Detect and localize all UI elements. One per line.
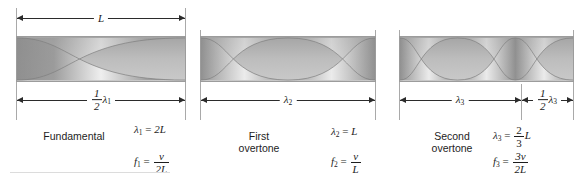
standing-wave-shape-1 [17,37,185,81]
lambda3-sub-a: 3 [461,98,465,107]
panel-first-overtone: λ2 First overtone λ2 = L f2 = v L [186,0,376,181]
caption-line1-panel1: Fundamental [43,130,104,142]
lambda3-fraction: 2 3 [514,124,524,150]
lambda2-value: L [351,125,357,137]
bottom-hairline-rule [10,172,170,173]
bottom-dimension-a-arrow-left-panel3 [400,97,406,103]
f3-numerator: 3v [513,150,529,163]
bottom-dimension-b-arrow-right-panel3 [567,97,573,103]
top-dimension-arrow-right-panel1 [179,15,185,21]
half-fraction-panel3: 1 2 [538,87,548,113]
bottom-dimension-arrow-left-panel1 [17,97,23,103]
string-bar-second-overtone [399,36,574,82]
f3-subscript: 3 [496,160,500,169]
top-dimension-label-panel1: L [94,13,108,24]
lambda-sub-panel2: 2 [289,98,293,107]
wavelength-equation-panel3: λ3 = 2 3 L [493,124,531,150]
wavelength-equation-panel2: λ2 = L [331,126,357,138]
top-dimension-arrow-left-panel1 [17,15,23,21]
bottom-dimension-arrow-right-panel1 [179,97,185,103]
equals-sign-w2: = [342,125,348,137]
bottom-dimension-label-panel2: λ2 [280,94,297,106]
equals-sign-f2: = [341,155,347,167]
caption-line2-panel3: overtone [432,142,473,154]
bottom-dimension-label-b-panel3: 1 2 λ3 [533,87,561,113]
standing-wave-shape-2 [201,37,375,81]
lambda2-subscript: 2 [336,130,340,139]
lambda3-denominator: 3 [514,137,524,150]
caption-second-overtone: Second overtone [432,130,473,154]
lambda-sub-panel1: 1 [107,97,111,106]
f1-subscript: 1 [137,160,141,169]
bottom-dimension-b-arrow-left-panel3 [522,97,528,103]
f2-fraction: v L [351,150,361,176]
wavelength-equation-panel1: λ1 = 2L [134,124,166,136]
caption-line1-panel2: First [239,130,280,142]
bottom-dimension-a-arrow-right-panel3 [515,97,521,103]
string-bar-fundamental [16,36,186,82]
caption-fundamental: Fundamental [43,130,104,142]
lambda3-numerator: 2 [514,124,524,137]
equals-sign-f3: = [503,155,509,167]
f3-denominator: 2L [513,163,529,176]
caption-line2-panel2: overtone [239,142,280,154]
caption-line1-panel3: Second [432,130,473,142]
f2-denominator: L [351,163,361,176]
equals-sign-w3: = [504,129,510,141]
bottom-dimension-label-a-panel3: λ3 [452,94,469,106]
f2-numerator: v [351,150,361,163]
panel-fundamental: L [0,0,186,181]
bottom-dimension-label-panel1: 1 2 λ1 [87,87,115,113]
f1-numerator: v [154,150,170,163]
bottom-dimension-arrow-left-panel2 [201,97,207,103]
frequency-equation-panel2: f2 = v L [331,150,362,176]
standing-wave-shape-3 [400,37,573,81]
frequency-equation-panel3: f3 = 3v 2L [493,150,529,176]
lambda3-sub-b: 3 [553,97,557,106]
half-fraction-panel1: 1 2 [92,87,102,113]
bottom-dimension-arrow-right-panel2 [369,97,375,103]
equals-sign-f1: = [144,155,150,167]
lambda1-value: 2L [154,123,166,135]
equals-sign-w1: = [145,123,151,135]
string-bar-first-overtone [200,36,376,82]
lambda3-subscript: 3 [498,134,502,143]
lambda1-subscript: 1 [139,128,143,137]
f1-denominator: 2L [154,163,170,176]
f2-subscript: 2 [334,160,338,169]
lambda3-tail: L [525,129,531,141]
caption-first-overtone: First overtone [239,130,280,154]
panel-second-overtone: λ3 1 2 λ3 Second overtone λ3 = 2 3 L f3 … [376,0,575,181]
f3-fraction: 3v 2L [513,150,529,176]
